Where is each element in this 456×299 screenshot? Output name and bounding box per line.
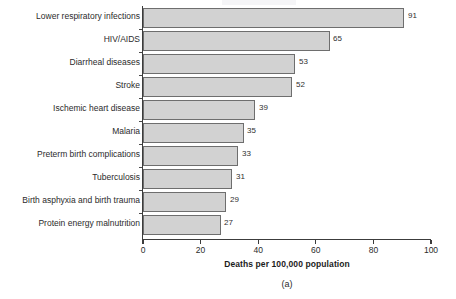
bar-wrapper	[143, 77, 292, 97]
bar-value-label: 53	[299, 57, 308, 66]
x-axis-tick-label: 80	[369, 245, 378, 255]
category-label: Diarrheal diseases	[0, 56, 140, 68]
bar-row: HIV/AIDS 65	[0, 30, 456, 53]
bar-row: Diarrheal diseases 53	[0, 53, 456, 76]
category-label: Protein energy malnutrition	[0, 217, 140, 229]
x-axis-tick	[142, 240, 143, 244]
bar-row: Malaria 35	[0, 122, 456, 145]
bar	[143, 146, 238, 166]
bar-value-label: 31	[236, 172, 245, 181]
bar	[143, 123, 244, 143]
figure-bar-chart: Lower respiratory infections 91 HIV/AIDS…	[0, 0, 456, 299]
bar	[143, 100, 255, 120]
bar-wrapper	[143, 31, 330, 51]
x-axis-tick-label: 40	[253, 245, 262, 255]
x-axis-tick	[200, 240, 201, 244]
bar-rows: Lower respiratory infections 91 HIV/AIDS…	[0, 7, 456, 237]
bar-wrapper	[143, 146, 238, 166]
bar-wrapper	[143, 123, 244, 143]
bar	[143, 8, 404, 28]
bar-row: Birth asphyxia and birth trauma 29	[0, 191, 456, 214]
x-axis-tick	[430, 240, 431, 244]
bar-value-label: 52	[296, 80, 305, 89]
category-label: Preterm birth complications	[0, 148, 140, 160]
category-label: Lower respiratory infections	[0, 10, 140, 22]
bar-value-label: 27	[224, 218, 233, 227]
figure-caption: (a)	[143, 279, 431, 289]
bar-value-label: 33	[242, 149, 251, 158]
x-axis-tick	[258, 240, 259, 244]
bar-row: Tuberculosis 31	[0, 168, 456, 191]
bar-wrapper	[143, 8, 404, 28]
x-axis-tick	[373, 240, 374, 244]
x-axis-tick-label: 20	[196, 245, 205, 255]
bar	[143, 215, 221, 235]
category-label: Tuberculosis	[0, 171, 140, 183]
bar-row: Protein energy malnutrition 27	[0, 214, 456, 237]
bar-value-label: 35	[247, 126, 256, 135]
category-label: Ischemic heart disease	[0, 102, 140, 114]
bar	[143, 54, 295, 74]
bar-wrapper	[143, 54, 295, 74]
x-axis-tick	[315, 240, 316, 244]
bar-row: Stroke 52	[0, 76, 456, 99]
bar-row: Lower respiratory infections 91	[0, 7, 456, 30]
plot-area: Lower respiratory infections 91 HIV/AIDS…	[0, 0, 456, 250]
bar-row: Preterm birth complications 33	[0, 145, 456, 168]
bar	[143, 169, 232, 189]
x-axis-tick-label: 100	[424, 245, 438, 255]
category-label: HIV/AIDS	[0, 33, 140, 45]
bar-row: Ischemic heart disease 39	[0, 99, 456, 122]
bar-value-label: 91	[408, 11, 417, 20]
bar-value-label: 39	[259, 103, 268, 112]
bar-wrapper	[143, 215, 221, 235]
bar-wrapper	[143, 100, 255, 120]
x-axis-tick-label: 0	[141, 245, 146, 255]
bar	[143, 77, 292, 97]
bar	[143, 31, 330, 51]
category-label: Stroke	[0, 79, 140, 91]
category-label: Birth asphyxia and birth trauma	[0, 194, 140, 206]
x-axis-tick-label: 60	[311, 245, 320, 255]
bar-value-label: 65	[333, 34, 342, 43]
bar-value-label: 29	[230, 195, 239, 204]
bar	[143, 192, 226, 212]
y-axis-line	[142, 6, 143, 239]
x-axis-line	[142, 239, 431, 240]
x-axis-title: Deaths per 100,000 population	[143, 259, 431, 269]
category-label: Malaria	[0, 125, 140, 137]
bar-wrapper	[143, 169, 232, 189]
bar-wrapper	[143, 192, 226, 212]
